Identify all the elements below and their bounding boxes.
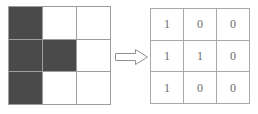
value-cell-r1c2: 0 — [184, 9, 216, 40]
value-cell-r3c1: 1 — [151, 72, 183, 103]
binary-mask-conversion-figure: 1 0 0 1 1 0 1 0 0 — [0, 0, 258, 114]
value-cell-r2c2: 1 — [184, 41, 216, 72]
right-arrow-icon — [115, 47, 148, 67]
value-cell-r2c1: 1 — [151, 41, 183, 72]
binary-value-3x3-grid: 1 0 0 1 1 0 1 0 0 — [150, 8, 250, 104]
pixel-cell-r3c3 — [77, 72, 110, 104]
pixel-cell-r3c1 — [9, 72, 42, 104]
pixel-cell-r2c2 — [43, 40, 76, 72]
value-cell-r2c3: 0 — [217, 41, 249, 72]
value-cell-r1c1: 1 — [151, 9, 183, 40]
pixel-cell-r3c2 — [43, 72, 76, 104]
value-cell-r3c3: 0 — [217, 72, 249, 103]
shaded-3x3-grid — [8, 6, 111, 105]
value-cell-r1c3: 0 — [217, 9, 249, 40]
value-cell-r3c2: 0 — [184, 72, 216, 103]
pixel-cell-r2c1 — [9, 40, 42, 72]
pixel-cell-r2c3 — [77, 40, 110, 72]
pixel-cell-r1c2 — [43, 7, 76, 39]
pixel-cell-r1c3 — [77, 7, 110, 39]
right-arrow-glyph — [115, 47, 148, 67]
pixel-cell-r1c1 — [9, 7, 42, 39]
